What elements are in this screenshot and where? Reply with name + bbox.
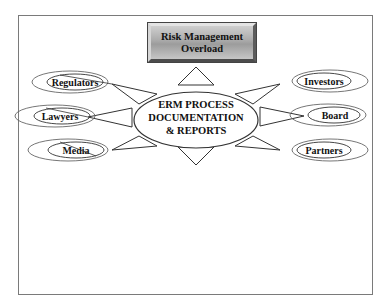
media-label: Media (62, 145, 89, 156)
lawyers-label: Lawyers (42, 111, 79, 122)
stakeholder-investors: Investors (292, 70, 368, 92)
stakeholder-lawyers: Lawyers (15, 105, 95, 127)
beam-to-board (260, 107, 304, 126)
stakeholder-regulators: Regulators (32, 71, 112, 93)
stakeholder-media: Media (28, 139, 108, 161)
erm-diagram: ERM PROCESS DOCUMENTATION & REPORTS Regu… (0, 0, 388, 306)
stakeholder-partners: Partners (292, 139, 368, 161)
down-triangle-icon (178, 147, 214, 165)
investors-label: Investors (304, 76, 344, 87)
center-line3: & REPORTS (166, 125, 227, 136)
center-line1: ERM PROCESS (158, 99, 234, 110)
board-label: Board (322, 110, 349, 121)
erm-process-node: ERM PROCESS DOCUMENTATION & REPORTS (134, 92, 258, 148)
center-line2: DOCUMENTATION (148, 112, 244, 123)
partners-label: Partners (305, 145, 342, 156)
regulators-label: Regulators (52, 77, 99, 88)
up-triangle-icon (178, 67, 214, 85)
